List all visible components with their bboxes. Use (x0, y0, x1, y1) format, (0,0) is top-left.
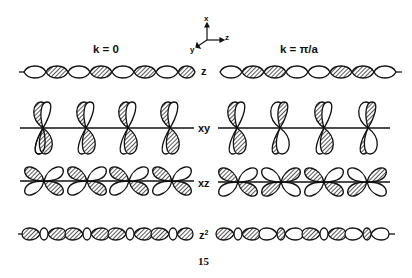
axis-triad-icon (196, 23, 224, 48)
row-dz2-k0 (18, 228, 193, 240)
row-pz-k0 (19, 66, 195, 78)
row-pz-kpi (220, 66, 402, 78)
orbital-diagram-svg (0, 0, 412, 278)
row-dz2-kpi (216, 228, 395, 240)
